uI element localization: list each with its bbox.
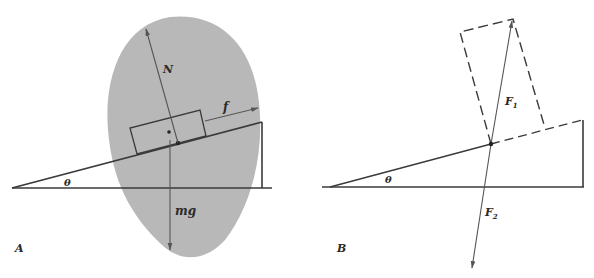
angle-theta-label-a: θ — [64, 177, 71, 188]
center-of-mass-dot — [167, 130, 171, 134]
f1-arrow — [491, 21, 512, 144]
incline-hypotenuse-dashed — [491, 120, 582, 144]
shaded-region — [107, 16, 260, 257]
weight-label: mg — [175, 204, 196, 218]
normal-force-label: N — [162, 63, 174, 76]
free-body-diagram: N f mg θ A F1 F2 θ B — [0, 0, 594, 278]
contact-point-dot — [489, 142, 493, 146]
angle-theta-label-b: θ — [385, 174, 392, 185]
panel-a: N f mg θ A — [12, 16, 272, 257]
parallelogram-dashed — [460, 19, 545, 144]
f2-label: F2 — [484, 206, 498, 221]
panel-a-label: A — [14, 242, 24, 255]
panel-b: F1 F2 θ B — [322, 19, 584, 268]
f1-label: F1 — [504, 95, 518, 110]
incline-hypotenuse-solid — [330, 144, 491, 187]
panel-b-label: B — [336, 242, 346, 255]
